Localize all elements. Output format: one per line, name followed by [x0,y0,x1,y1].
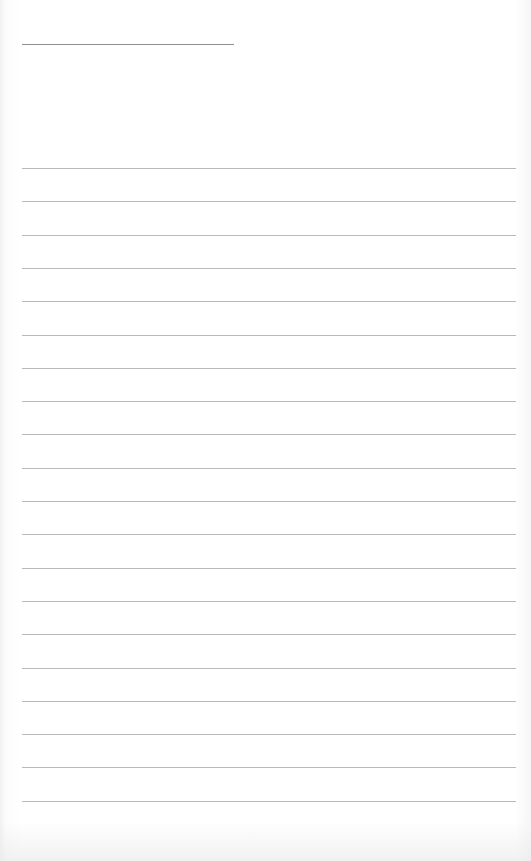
ruled-line [22,534,516,535]
ruled-line [22,268,516,269]
page-shadow [0,821,531,861]
ruled-line [22,301,516,302]
ruled-line [22,235,516,236]
title-line [22,44,234,45]
ruled-line [22,201,516,202]
ruled-line [22,767,516,768]
ruled-line [22,434,516,435]
ruled-line [22,701,516,702]
ruled-line [22,168,516,169]
ruled-line [22,401,516,402]
ruled-line [22,568,516,569]
ruled-line [22,734,516,735]
lined-paper-page [0,0,531,861]
ruled-line [22,335,516,336]
ruled-line [22,501,516,502]
ruled-line [22,601,516,602]
ruled-line [22,468,516,469]
ruled-line [22,801,516,802]
ruled-line [22,668,516,669]
ruled-line [22,368,516,369]
ruled-line [22,634,516,635]
